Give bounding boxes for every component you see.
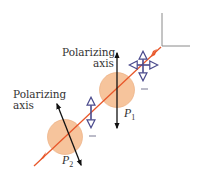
p2-axis-label: Polarizing axis (13, 89, 65, 111)
p2-label: P2 (62, 153, 73, 169)
p2-axis-label-line2: axis (13, 100, 65, 111)
p1-label: P1 (124, 106, 135, 122)
p1-axis-label: Polarizing axis (62, 47, 114, 69)
p1-axis-label-line2: axis (62, 58, 114, 69)
corner-reference (162, 13, 190, 46)
unpolarized-light-icon (130, 52, 157, 80)
